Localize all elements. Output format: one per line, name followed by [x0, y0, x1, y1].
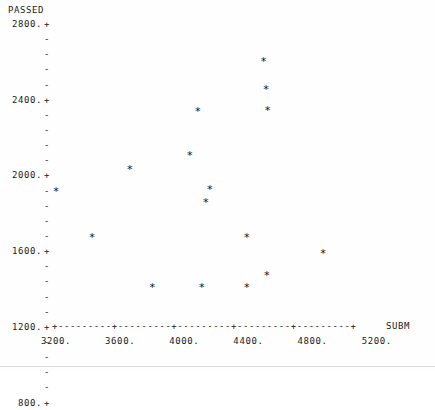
data-point-marker: *: [263, 105, 272, 116]
data-point-marker: *: [193, 106, 202, 117]
x-axis-line: +---------+---------+---------+---------…: [52, 321, 356, 332]
y-axis-minor-tick: -: [0, 32, 52, 47]
y-axis-tick-mark: -: [42, 214, 52, 229]
x-axis-tick-label: 4000.: [169, 336, 199, 346]
y-axis-minor-tick: -: [0, 47, 52, 62]
y-axis-tick-mark: -: [42, 229, 52, 244]
data-point-marker: *: [259, 56, 268, 67]
x-axis-tick-label: 3200.: [41, 336, 71, 346]
data-point-marker: *: [52, 186, 61, 197]
y-axis-tick-mark: +: [42, 320, 52, 335]
y-axis-tick-label: 2800.: [12, 17, 42, 32]
data-point-marker: *: [88, 232, 97, 243]
data-point-marker: *: [205, 184, 214, 195]
y-axis-major-tick: 1200.+: [0, 320, 52, 335]
data-point-marker: *: [125, 164, 134, 175]
y-axis-minor-tick: -: [0, 199, 52, 214]
y-axis-tick-mark: +: [42, 168, 52, 183]
y-axis-major-tick: 1600.+: [0, 244, 52, 259]
y-axis-tick-label: 1200.: [12, 320, 42, 335]
data-point-marker: *: [262, 270, 271, 281]
y-axis-major-tick: 800.+: [0, 396, 52, 410]
y-axis-minor-tick: -: [0, 184, 52, 199]
y-axis-tick-mark: -: [42, 138, 52, 153]
data-point-marker: *: [318, 248, 327, 259]
y-axis-tick-mark: -: [42, 380, 52, 395]
y-axis-minor-tick: -: [0, 214, 52, 229]
y-axis-minor-tick: -: [0, 365, 52, 380]
y-axis-minor-tick: -: [0, 259, 52, 274]
y-axis-tick-mark: +: [42, 93, 52, 108]
y-axis-minor-tick: -: [0, 274, 52, 289]
y-axis-tick-mark: -: [42, 350, 52, 365]
data-point-marker: *: [197, 282, 206, 293]
data-point-marker: *: [185, 150, 194, 161]
y-axis-minor-tick: -: [0, 62, 52, 77]
y-axis-minor-tick: -: [0, 380, 52, 395]
y-axis-tick-mark: -: [42, 62, 52, 77]
y-axis: 2800.+----2400.+----2000.+----1600.+----…: [0, 17, 52, 410]
y-axis-major-tick: 2000.+: [0, 168, 52, 183]
y-axis-tick-label: 2000.: [12, 168, 42, 183]
y-axis-tick-label: 2400.: [12, 93, 42, 108]
y-axis-tick-mark: -: [42, 153, 52, 168]
y-axis-minor-tick: -: [0, 229, 52, 244]
y-axis-tick-mark: -: [42, 78, 52, 93]
y-axis-tick-mark: +: [42, 17, 52, 32]
y-axis-tick-mark: -: [42, 32, 52, 47]
y-axis-tick-mark: -: [42, 199, 52, 214]
data-point-marker: *: [242, 282, 251, 293]
y-axis-tick-label: 1600.: [12, 244, 42, 259]
y-axis-minor-tick: -: [0, 138, 52, 153]
y-axis-tick-mark: -: [42, 290, 52, 305]
y-axis-tick-mark: -: [42, 305, 52, 320]
x-axis-tick-label: 4800.: [298, 336, 328, 346]
y-axis-title: PASSED: [8, 5, 44, 15]
data-point-marker: *: [201, 197, 210, 208]
data-point-marker: *: [148, 282, 157, 293]
x-axis-tick-label: 5200.: [362, 336, 392, 346]
y-axis-tick-mark: -: [42, 365, 52, 380]
y-axis-tick-mark: +: [42, 244, 52, 259]
y-axis-minor-tick: -: [0, 305, 52, 320]
x-axis-tick-label: 3600.: [105, 336, 135, 346]
y-axis-minor-tick: -: [0, 108, 52, 123]
y-axis-minor-tick: -: [0, 123, 52, 138]
y-axis-minor-tick: -: [0, 350, 52, 365]
y-axis-tick-mark: -: [42, 47, 52, 62]
data-point-marker: *: [262, 84, 271, 95]
y-axis-minor-tick: -: [0, 290, 52, 305]
x-axis-tick-labels: 3200.3600.4000.4400.4800.5200.: [0, 336, 435, 350]
x-axis-title: SUBM: [386, 321, 410, 332]
y-axis-tick-mark: +: [42, 396, 52, 410]
y-axis-tick-mark: -: [42, 274, 52, 289]
y-axis-tick-mark: -: [42, 108, 52, 123]
data-point-marker: *: [242, 232, 251, 243]
y-axis-minor-tick: -: [0, 78, 52, 93]
y-axis-minor-tick: -: [0, 153, 52, 168]
y-axis-major-tick: 2800.+: [0, 17, 52, 32]
x-axis-tick-label: 4400.: [233, 336, 263, 346]
y-axis-tick-mark: -: [42, 259, 52, 274]
y-axis-tick-mark: -: [42, 123, 52, 138]
y-axis-tick-label: 800.: [18, 396, 42, 410]
y-axis-major-tick: 2400.+: [0, 93, 52, 108]
y-axis-tick-mark: -: [42, 184, 52, 199]
page-edge-divider: [0, 366, 435, 367]
